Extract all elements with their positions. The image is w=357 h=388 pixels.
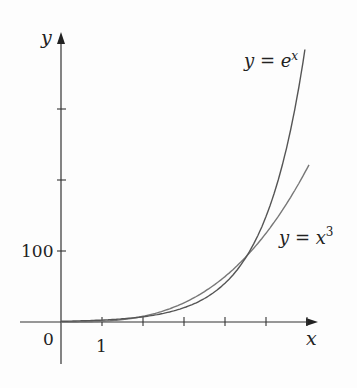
origin-label: 0 (43, 329, 54, 349)
plot-area: y x 0 1 100 y = ex y = x3 (0, 0, 357, 388)
exp-curve (61, 50, 305, 322)
x-axis-arrow-icon (306, 318, 318, 326)
x-tick-label-1: 1 (96, 336, 107, 356)
cube-curve-label: y = x3 (278, 225, 334, 248)
x-axis-label: x (306, 327, 317, 349)
y-axis-label: y (40, 26, 52, 48)
y-tick-label-100: 100 (21, 241, 53, 261)
y-axis-arrow-icon (57, 32, 65, 44)
chart: y x 0 1 100 y = ex y = x3 (0, 0, 357, 388)
exp-curve-label: y = ex (243, 49, 298, 71)
cube-curve (61, 165, 309, 322)
